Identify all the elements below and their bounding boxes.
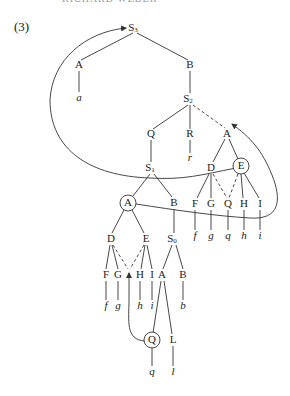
node-b-s0: B: [179, 268, 186, 280]
movement-arrows: [50, 28, 277, 341]
node-q-right: Q: [224, 197, 232, 209]
node-g-left: G: [114, 268, 122, 280]
node-labels: S3 A a B S2 Q R r A D E F G Q H I f g q …: [75, 21, 262, 377]
node-l: L: [170, 333, 177, 345]
terminal-r: r: [188, 151, 193, 163]
node-i-left: I: [150, 268, 154, 280]
node-d-right: D: [207, 161, 215, 173]
terminal-i-right: i: [258, 229, 261, 241]
terminal-a: a: [76, 91, 82, 103]
node-e-left: E: [143, 232, 150, 244]
node-f-right: F: [192, 197, 198, 209]
node-a-right: A: [223, 127, 231, 139]
node-f-left: F: [103, 268, 109, 280]
terminal-l: l: [171, 365, 174, 377]
node-h-left: H: [136, 268, 144, 280]
node-s3: S3: [128, 21, 138, 34]
node-i-right: I: [258, 197, 262, 209]
terminal-q-right: q: [225, 229, 231, 241]
node-q-bottom: Q: [148, 333, 156, 345]
node-a-top: A: [75, 58, 83, 70]
node-s0: S0: [167, 232, 177, 245]
terminal-f-left: f: [104, 299, 109, 311]
node-q-s2: Q: [147, 127, 155, 139]
node-a-s0: A: [158, 268, 166, 280]
terminal-g-left: g: [115, 299, 121, 311]
node-s2: S2: [183, 92, 193, 105]
node-b-top: B: [186, 58, 193, 70]
node-b-left: B: [170, 196, 177, 208]
node-r: R: [186, 127, 194, 139]
arrow-e-to-s3: [50, 28, 236, 178]
node-e-right: E: [238, 159, 245, 171]
node-s1: S1: [145, 161, 155, 174]
node-h-right: H: [240, 197, 248, 209]
node-g-right: G: [207, 197, 215, 209]
terminal-g-right: g: [208, 229, 214, 241]
node-d-left: D: [107, 232, 115, 244]
syntax-tree-diagram: S3 A a B S2 Q R r A D E F G Q H I f g q …: [0, 0, 290, 396]
terminal-h-left: h: [137, 299, 143, 311]
terminal-b: b: [180, 299, 186, 311]
node-a-left: A: [124, 196, 132, 208]
terminal-i-left: i: [150, 299, 153, 311]
terminal-q-bottom: q: [149, 365, 155, 377]
terminal-f-right: f: [193, 229, 198, 241]
terminal-h-right: h: [241, 229, 247, 241]
